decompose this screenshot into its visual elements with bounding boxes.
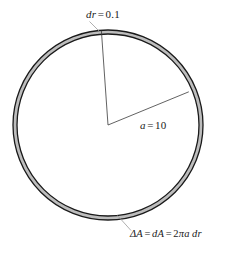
dr-value: 0.1 bbox=[106, 8, 120, 20]
leader-line-dr bbox=[90, 22, 100, 32]
radius-value: 10 bbox=[155, 119, 166, 131]
radius-label: a=10 bbox=[140, 120, 167, 131]
leader-lines bbox=[90, 22, 132, 231]
area-equals-1: = bbox=[143, 228, 152, 239]
dr-equals: = bbox=[96, 8, 105, 20]
radius-lines bbox=[101, 31, 188, 125]
radius-equals: = bbox=[146, 119, 155, 131]
area-formula-label: ΔA=dA=2πa dr bbox=[130, 229, 202, 240]
diagram-canvas bbox=[0, 0, 225, 253]
delta-a-term: ΔA bbox=[130, 228, 143, 239]
area-equals-2: = bbox=[164, 228, 173, 239]
area-dr-term: dr bbox=[192, 228, 202, 239]
annulus-diagram: dr=0.1 a=10 ΔA=dA=2πa dr bbox=[0, 0, 225, 253]
dr-variable: dr bbox=[86, 8, 96, 20]
dr-label: dr=0.1 bbox=[86, 9, 120, 20]
radius-line-to-top bbox=[101, 31, 108, 125]
radius-variable: a bbox=[140, 119, 146, 131]
d-a-term: dA bbox=[152, 228, 164, 239]
